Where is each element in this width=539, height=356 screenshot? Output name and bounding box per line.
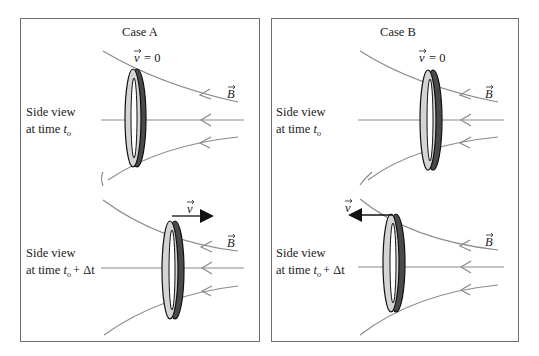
panel-b-title: Case B xyxy=(380,25,416,39)
velocity-label-a-bottom: v xyxy=(187,200,194,216)
svg-text:Side view: Side view xyxy=(276,105,326,119)
arrowhead-icon xyxy=(460,89,471,99)
field-label-b-top: B xyxy=(485,85,493,101)
diagram-canvas: Case A v = 0 B Side view xyxy=(0,0,539,356)
arrowhead-icon xyxy=(200,137,211,148)
svg-text:at time to+ Δt: at time to+ Δt xyxy=(26,263,95,279)
field-line xyxy=(360,199,498,250)
svg-text:= 0: = 0 xyxy=(429,51,445,65)
field-label-a-bottom: B xyxy=(227,234,235,250)
field-lines-b-bottom xyxy=(358,172,504,335)
ring-a-bottom xyxy=(162,221,184,319)
field-label-a-top: B xyxy=(227,85,235,101)
svg-text:B: B xyxy=(227,87,235,101)
svg-text:Side view: Side view xyxy=(26,246,76,260)
svg-text:at time to: at time to xyxy=(26,122,71,138)
panel-case-b: Case B v = 0 B Side view at time xyxy=(272,19,519,342)
side-view-label-b-bottom: Side view at time to+ Δt xyxy=(276,246,345,279)
arrowhead-icon xyxy=(200,209,214,223)
ring-b-top xyxy=(420,70,442,170)
ring-hole xyxy=(131,78,137,158)
svg-text:B: B xyxy=(485,235,493,249)
field-label-b-bottom: B xyxy=(485,233,493,249)
side-view-label-a-top: Side view at time to xyxy=(26,105,76,138)
svg-text:Side view: Side view xyxy=(276,246,326,260)
side-view-label-b-top: Side view at time to xyxy=(276,105,326,138)
panel-case-a: Case A v = 0 B Side view xyxy=(21,19,260,342)
svg-text:Side view: Side view xyxy=(26,105,76,119)
ring-hole xyxy=(390,223,396,303)
arrowhead-icon xyxy=(460,137,471,148)
ring-hole xyxy=(169,230,175,310)
svg-text:v: v xyxy=(134,51,140,65)
svg-text:B: B xyxy=(227,236,235,250)
panel-a-border xyxy=(21,19,260,342)
field-lines-a-top xyxy=(101,51,244,180)
svg-text:v: v xyxy=(419,51,425,65)
svg-text:v: v xyxy=(187,202,193,216)
velocity-label-b-top: v = 0 xyxy=(419,49,445,65)
field-line xyxy=(360,285,498,335)
svg-text:at time to: at time to xyxy=(276,122,321,138)
velocity-arrow-left xyxy=(348,208,393,222)
ring-hole xyxy=(427,79,433,161)
ring-b-bottom xyxy=(383,214,405,312)
ring-a-top xyxy=(125,69,146,167)
svg-text:at time to+ Δt: at time to+ Δt xyxy=(276,263,345,279)
velocity-label-a-top: v = 0 xyxy=(134,49,160,65)
svg-text:B: B xyxy=(485,87,493,101)
velocity-arrow-right xyxy=(172,209,214,223)
panel-a-title: Case A xyxy=(122,25,158,39)
field-line xyxy=(102,172,104,186)
velocity-label-b-bottom: v xyxy=(345,199,352,215)
field-line xyxy=(103,51,238,102)
side-view-label-a-bottom: Side view at time to+ Δt xyxy=(26,246,95,279)
svg-text:v: v xyxy=(345,201,351,215)
svg-text:= 0: = 0 xyxy=(144,51,160,65)
